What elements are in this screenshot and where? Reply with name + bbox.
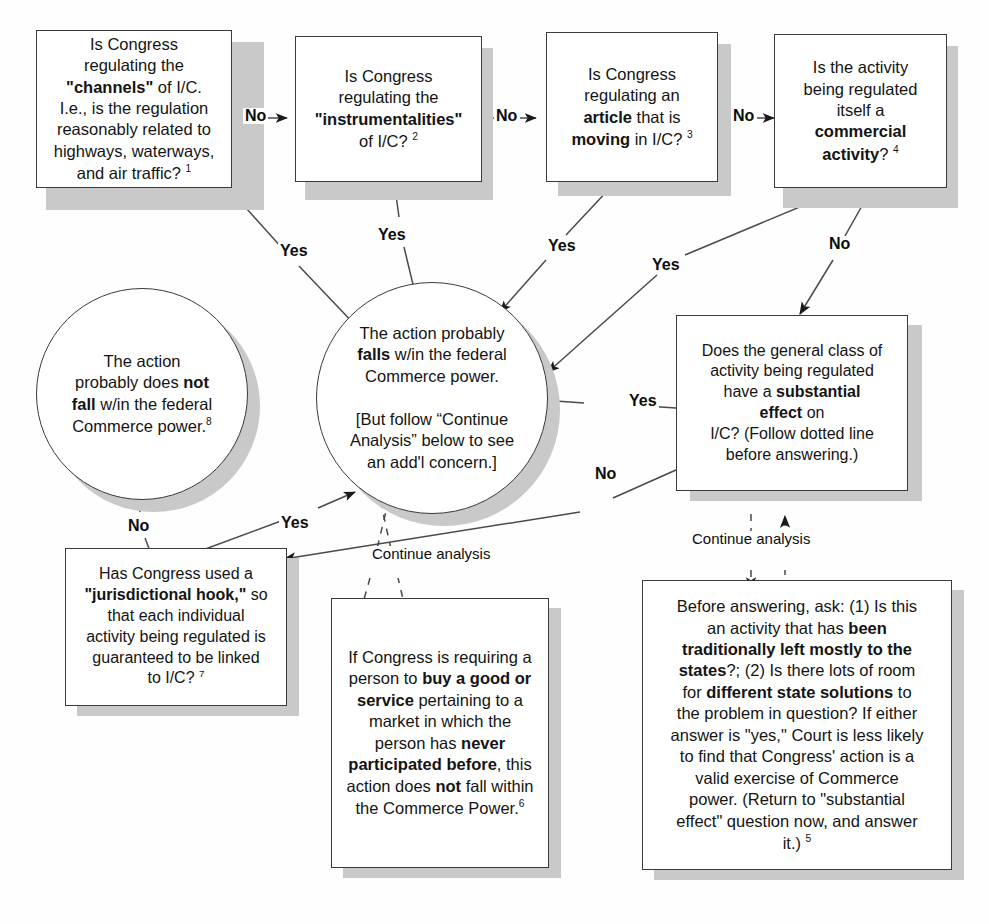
node-q5-substantial-effect[interactable]: Does the general class ofactivity being … [676,315,908,491]
node-outcome-falls-within[interactable]: The action probablyfalls w/in the federa… [316,282,548,514]
edge-label-continue-analysis-right: Continue analysis [690,531,812,546]
edge-label-yes-q1-falls: Yes [278,243,310,259]
edge-label-yes-subst-falls: Yes [627,393,659,409]
edge-label-no-q2-q3: No [494,108,519,124]
node-q4-text: Is the activitybeing regulateditself aco… [797,57,925,165]
node-q1-channels[interactable]: Is Congressregulating the"channels" of I… [36,30,232,188]
node-q2-instrumentalities[interactable]: Is Congressregulating the"instrumentalit… [295,36,482,182]
edge-label-no-q4-subst: No [827,236,852,252]
edge-no-subst-hook [613,470,676,498]
edge-label-yes-hook-falls: Yes [279,515,311,531]
edge-label-no-q1-q2: No [243,108,268,124]
edge-label-yes-q4-falls: Yes [650,257,682,273]
node-note-before-answering[interactable]: Before answering, ask: (1) Is thisan act… [642,580,952,870]
edge-label-yes-q2-falls: Yes [376,227,408,243]
edge-label-yes-q3-falls: Yes [546,238,578,254]
flowchart-canvas: Is Congressregulating the"channels" of I… [0,0,989,924]
node-outcome-does-not-fall[interactable]: The actionprobably does notfall w/in the… [36,288,248,500]
node-q6-jurisdictional-hook[interactable]: Has Congress used a"jurisdictional hook,… [65,548,287,706]
node-note-buy-good-or-service[interactable]: If Congress is requiring aperson to buy … [331,598,549,868]
edge-yes-hook-falls [200,521,281,551]
edge-yes-q3-fallsb [500,260,546,312]
node-notfall-text: The actionprobably does notfall w/in the… [65,351,219,437]
edge-yes-hook-fallsb [318,492,355,508]
node-q1-text: Is Congressregulating the"channels" of I… [47,34,221,185]
edge-no-q4-substb [800,260,833,314]
node-before-text: Before answering, ask: (1) Is thisan act… [664,596,931,854]
edge-label-continue-analysis-center: Continue analysis [370,546,492,561]
node-subst-text: Does the general class ofactivity being … [695,341,890,466]
node-q2-text: Is Congressregulating the"instrumentalit… [308,66,470,152]
edge-yes-q4-fallsb [548,275,657,372]
edge-label-no-subst-hook: No [593,466,618,482]
edge-label-no-q3-q4: No [731,108,756,124]
node-falls-text: The action probablyfalls w/in the federa… [343,323,521,473]
node-q3-text: Is Congressregulating anarticle that ism… [564,64,699,150]
edge-label-no-hook-notfall: No [126,518,151,534]
node-q3-article-moving[interactable]: Is Congressregulating anarticle that ism… [546,32,718,182]
node-buygood-text: If Congress is requiring aperson to buy … [339,647,540,819]
node-q4-commercial-activity[interactable]: Is the activitybeing regulateditself aco… [774,34,947,188]
node-hook-text: Has Congress used a"jurisdictional hook,… [77,564,274,689]
